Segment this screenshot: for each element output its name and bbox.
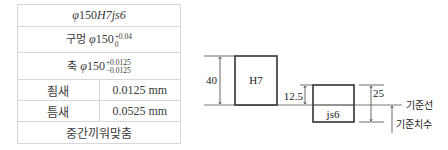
tolerance-zone-diagram: 40 H7 12.5 js6 25 기준선 기준치수 (0, 0, 448, 150)
baseline-label: 기준선 (406, 100, 433, 111)
basic-size-label: 기준치수 (396, 119, 432, 130)
dim-40-label: 40 (206, 74, 218, 86)
dim-12-5-label: 12.5 (284, 90, 304, 102)
shaft-zone-label: js6 (326, 108, 340, 120)
hole-zone-label: H7 (249, 74, 263, 86)
dim-25-label: 25 (373, 87, 385, 99)
